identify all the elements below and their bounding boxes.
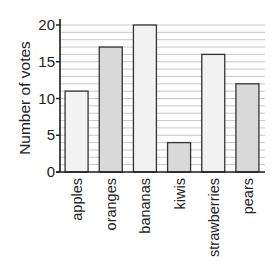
bar-strawberries: [202, 54, 225, 172]
x-category-label: oranges: [103, 178, 119, 230]
y-tick-label: 20: [38, 16, 55, 33]
x-category-label: kiwis: [172, 178, 188, 209]
bar-bananas: [133, 25, 156, 172]
y-tick-label: 5: [47, 126, 55, 143]
x-category-label: bananas: [137, 178, 153, 234]
bar-pears: [236, 84, 259, 172]
bar-chart: 05101520 applesorangesbananaskiwisstrawb…: [0, 0, 277, 277]
x-category-labels: applesorangesbananaskiwisstrawberriespea…: [69, 178, 256, 257]
x-category-label: apples: [69, 178, 85, 221]
grid-lines: [60, 25, 265, 165]
x-category-label: strawberries: [206, 178, 222, 257]
y-tick-label: 10: [38, 90, 55, 107]
y-tick-label: 0: [47, 163, 55, 180]
y-tick-label: 15: [38, 53, 55, 70]
bar-apples: [65, 91, 88, 172]
x-category-label: pears: [240, 178, 256, 214]
y-axis-label: Number of votes: [16, 41, 33, 155]
bar-oranges: [99, 47, 122, 172]
bar-kiwis: [168, 143, 191, 172]
y-tick-labels: 05101520: [38, 16, 55, 180]
